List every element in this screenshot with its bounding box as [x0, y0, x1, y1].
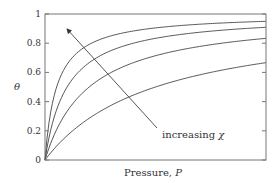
- isotherm-curve-3: [45, 38, 266, 160]
- langmuir-isotherm-chart: 00.20.40.60.81 θ Pressure, P increasing …: [0, 0, 274, 183]
- y-tick-label: 0: [35, 155, 41, 165]
- increasing-chi-annotation: increasing χ: [162, 129, 225, 140]
- y-tick-label: 0.2: [27, 126, 41, 136]
- y-tick-label: 0.4: [27, 97, 42, 107]
- increasing-chi-arrow: [67, 29, 157, 128]
- y-axis-ticks: 00.20.40.60.81: [27, 9, 266, 165]
- isotherm-curve-2: [45, 27, 266, 160]
- x-axis-label: Pressure, P: [124, 167, 182, 178]
- y-tick-label: 0.6: [27, 67, 42, 77]
- isotherm-curves: [45, 21, 266, 160]
- y-axis-label: θ: [14, 81, 20, 92]
- y-tick-label: 0.8: [27, 38, 42, 48]
- y-tick-label: 1: [35, 9, 41, 19]
- isotherm-curve-4: [45, 63, 266, 160]
